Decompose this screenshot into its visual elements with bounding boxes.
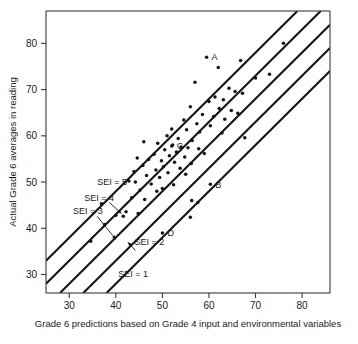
sei-label-5: SEI = 5 <box>97 177 127 187</box>
data-point <box>217 107 221 111</box>
data-point <box>201 113 205 117</box>
data-point <box>182 118 186 122</box>
data-point <box>100 202 104 206</box>
data-point <box>124 210 128 214</box>
data-point <box>141 164 145 168</box>
sei-label-2: SEI = 2 <box>134 237 164 247</box>
data-point <box>241 92 245 96</box>
data-point <box>149 182 153 186</box>
data-point <box>143 198 147 202</box>
scatter-plot-figure: 304050607080 304050607080 SEI = 5SEI = 4… <box>0 0 358 344</box>
data-point <box>209 124 213 128</box>
data-point <box>189 105 193 109</box>
data-point <box>176 137 180 141</box>
data-point <box>147 158 151 162</box>
data-point <box>282 42 286 46</box>
y-tick-label-60: 60 <box>26 130 38 141</box>
chart-canvas: 304050607080 304050607080 SEI = 5SEI = 4… <box>0 0 358 344</box>
data-point <box>227 86 231 90</box>
sei-label-4: SEI = 4 <box>84 193 114 203</box>
data-point <box>173 160 177 164</box>
data-point <box>122 215 126 219</box>
data-point <box>178 166 182 170</box>
data-point <box>163 148 167 152</box>
data-point <box>243 136 247 140</box>
data-point <box>145 174 149 178</box>
data-point <box>190 139 194 143</box>
sei-annotations: SEI = 5SEI = 4SEI = 3SEI = 2SEI = 1 <box>73 177 164 279</box>
data-point <box>254 76 258 80</box>
data-point <box>230 109 234 113</box>
sei-label-1: SEI = 1 <box>118 269 148 279</box>
leader-sei-3 <box>97 216 116 239</box>
data-point <box>170 127 174 131</box>
data-point <box>233 90 237 94</box>
x-axis-title: Grade 6 predictions based on Grade 4 inp… <box>35 318 342 329</box>
sei-line-2 <box>83 48 330 293</box>
data-point <box>207 100 211 104</box>
data-point <box>170 144 174 148</box>
x-tick-label-60: 60 <box>203 300 215 311</box>
data-point <box>134 180 138 184</box>
data-point <box>193 80 197 84</box>
data-point <box>195 122 199 126</box>
data-point <box>223 117 227 121</box>
data-point <box>161 231 165 235</box>
data-point <box>239 59 243 63</box>
data-point <box>217 66 221 70</box>
data-point <box>185 128 189 132</box>
sei-line-4 <box>46 11 321 284</box>
data-point <box>165 134 169 138</box>
x-tick-label-80: 80 <box>297 300 309 311</box>
sei-regression-lines <box>46 11 330 293</box>
data-point <box>156 141 160 145</box>
y-tick-label-70: 70 <box>26 84 38 95</box>
data-point <box>155 190 159 194</box>
y-axis-title: Actual Grade 6 averages in reading <box>7 77 18 226</box>
data-point <box>130 196 134 200</box>
y-tick-label-50: 50 <box>26 177 38 188</box>
point-label-D: D <box>167 228 174 238</box>
labeled-point-markers: ABCD <box>167 52 221 238</box>
data-point <box>190 199 194 203</box>
x-tick-label-30: 30 <box>64 300 76 311</box>
data-point <box>268 73 272 77</box>
data-point <box>132 170 136 174</box>
sei-label-3: SEI = 3 <box>73 206 103 216</box>
data-point <box>222 98 226 102</box>
data-point <box>220 131 224 135</box>
y-tick-label-30: 30 <box>26 269 38 280</box>
data-point <box>213 95 217 99</box>
x-tick-label-50: 50 <box>157 300 169 311</box>
point-label-C: C <box>177 141 184 151</box>
data-point <box>136 212 140 216</box>
data-point <box>168 154 172 158</box>
data-point <box>136 156 140 160</box>
data-point <box>197 147 201 151</box>
data-point <box>196 201 200 205</box>
data-point <box>161 187 165 191</box>
sei-line-3 <box>60 25 330 293</box>
data-point <box>212 115 216 119</box>
data-point <box>198 130 202 134</box>
data-point <box>114 214 118 218</box>
data-point <box>190 162 194 166</box>
data-point <box>172 183 176 187</box>
data-point <box>138 188 142 192</box>
data-point <box>127 179 131 183</box>
data-point <box>189 215 193 219</box>
data-point <box>152 153 156 157</box>
plot-frame <box>46 11 330 293</box>
data-point <box>89 239 93 243</box>
data-point <box>158 176 162 180</box>
data-point <box>162 165 166 169</box>
x-tick-label-70: 70 <box>250 300 262 311</box>
data-point <box>166 171 170 175</box>
x-tick-label-40: 40 <box>110 300 122 311</box>
y-tick-label-40: 40 <box>26 223 38 234</box>
y-tick-label-80: 80 <box>26 38 38 49</box>
point-label-A: A <box>212 52 218 62</box>
data-point <box>186 146 190 150</box>
point-label-B: B <box>215 180 221 190</box>
data-point <box>160 159 164 163</box>
